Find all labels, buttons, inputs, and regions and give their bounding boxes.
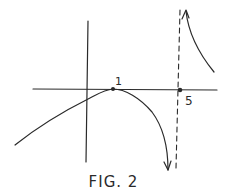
arrow-up-icon	[182, 10, 189, 19]
x-axis	[33, 89, 217, 90]
label-1: 1	[115, 75, 122, 88]
left-branch-curve	[15, 89, 168, 170]
label-5: 5	[185, 94, 193, 108]
point-x5	[178, 88, 183, 93]
function-sketch: 1 5	[0, 0, 227, 194]
figure-caption: FIG. 2	[0, 173, 227, 191]
right-branch-curve	[186, 11, 214, 72]
y-axis	[86, 21, 88, 162]
